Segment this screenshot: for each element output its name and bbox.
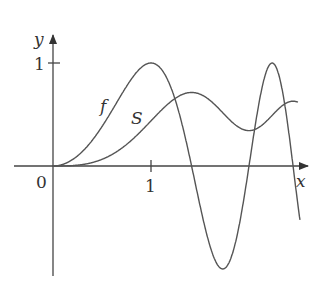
x-axis-label: x [296,171,306,191]
series-S-label: S [131,108,143,128]
y-axis [48,35,60,276]
series-S-line [53,93,298,167]
origin-label: 0 [36,172,47,192]
x-tick-label-1: 1 [145,176,156,196]
y-axis-label: y [33,29,44,49]
y-tick-label-1: 1 [34,54,45,74]
series-f-label: f [98,96,109,116]
chart-canvas: y x 0 1 1 f S [0,0,320,287]
